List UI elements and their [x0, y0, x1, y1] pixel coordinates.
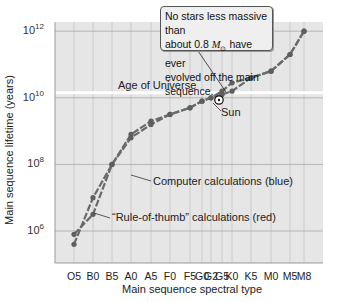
x-axis-label: Main sequence spectral type — [122, 283, 262, 295]
rule-of-thumb-label: “Rule-of-thumb” calculations (red) — [112, 211, 276, 223]
y-tick-label: 1012 — [14, 22, 44, 36]
callout-box: No stars less massive than about 0.8 M⊙ … — [160, 6, 273, 51]
computer-calculations-label: Computer calculations (blue) — [153, 175, 293, 187]
data-point — [287, 52, 292, 57]
data-point — [187, 105, 192, 110]
data-point — [148, 122, 153, 127]
data-point — [128, 135, 133, 140]
x-tick-label: F0 — [164, 270, 176, 282]
x-tick-label: B0 — [87, 270, 100, 282]
x-tick-label: A5 — [145, 270, 158, 282]
data-point — [90, 195, 95, 200]
x-tick-label: M0 — [264, 270, 279, 282]
y-tick-label: 1010 — [14, 89, 44, 103]
callout-line-3: evolved off the main sequence. — [165, 70, 268, 98]
data-point — [199, 99, 204, 104]
data-point — [71, 242, 76, 247]
data-point — [71, 232, 76, 237]
x-tick-label: B5 — [106, 270, 119, 282]
data-point — [109, 162, 114, 167]
data-point — [90, 212, 95, 217]
x-tick-label: M8 — [297, 270, 312, 282]
data-point — [167, 112, 172, 117]
x-tick-label: A0 — [125, 270, 138, 282]
x-tick-label: O5 — [67, 270, 81, 282]
x-tick-label: K0 — [226, 270, 239, 282]
sun-label: Sun — [221, 106, 241, 118]
callout-text: about 0.8 — [165, 38, 212, 50]
callout-line-1: No stars less massive than — [165, 9, 268, 37]
x-tick-label: K5 — [245, 270, 258, 282]
y-tick-label: 108 — [14, 155, 44, 169]
data-point — [268, 69, 273, 74]
data-point — [301, 29, 306, 34]
y-axis-label: Main sequence lifetime (years) — [3, 75, 15, 225]
callout-line-2: about 0.8 M⊙ have ever — [165, 37, 268, 70]
x-tick-label: M5 — [283, 270, 298, 282]
y-tick-label: 106 — [14, 222, 44, 236]
